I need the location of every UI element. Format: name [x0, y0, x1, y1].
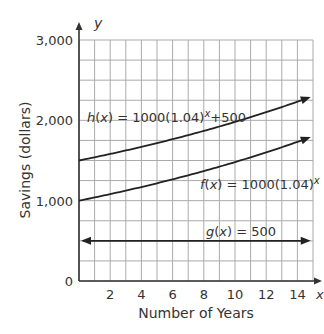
x-tick-label: 8 — [200, 287, 208, 302]
x-tick-label: 14 — [289, 287, 306, 302]
y-tick-label: 3,000 — [36, 33, 73, 48]
y-axis-arrow-icon — [76, 22, 83, 30]
f-label: f(x) = 1000(1.04)x — [200, 175, 320, 192]
h-label: h(x) = 1000(1.04)x+500 — [87, 108, 246, 125]
x-tick-label: 12 — [258, 287, 275, 302]
y-axis-title: Savings (dollars) — [17, 102, 33, 219]
x-axis-title: Number of Years — [138, 305, 254, 321]
x-axis-letter: x — [315, 287, 324, 302]
x-tick-label: 10 — [227, 287, 244, 302]
y-tick-label: 2,000 — [36, 113, 73, 128]
y-axis-letter: y — [93, 15, 103, 31]
tick-labels: 246810121401,0002,0003,000 — [36, 33, 306, 302]
x-axis-arrow-icon — [314, 278, 322, 285]
y-tick-label: 0 — [65, 274, 73, 289]
chart: 246810121401,0002,0003,000 y x Number of… — [0, 0, 324, 334]
y-tick-label: 1,000 — [36, 194, 73, 209]
g-left-arrow-icon — [81, 237, 91, 245]
grid — [79, 40, 313, 281]
g-label: g(x) = 500 — [206, 224, 276, 239]
g-right-arrow-icon — [301, 237, 311, 245]
x-tick-label: 6 — [168, 287, 176, 302]
x-tick-label: 4 — [137, 287, 145, 302]
x-tick-label: 2 — [106, 287, 114, 302]
